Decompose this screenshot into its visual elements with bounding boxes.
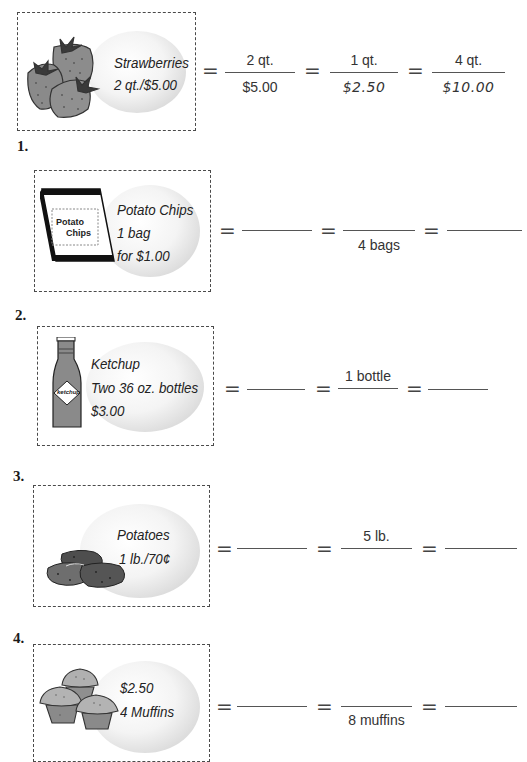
muffins-icon — [38, 665, 122, 731]
answer-blank[interactable] — [428, 389, 488, 390]
equals-sign: = — [406, 378, 423, 398]
fraction-numerator: 5 lb. — [341, 528, 412, 544]
item-label-line3: $3.00 — [91, 400, 124, 422]
ketchup-bottle-icon — [51, 337, 83, 433]
item-label-line2: 4 Muffins — [120, 701, 174, 723]
equals-sign: = — [421, 696, 438, 716]
problem-number: 2. — [15, 307, 26, 324]
problem-item-card: Potatoes 1 lb./70¢ — [33, 485, 210, 607]
fraction-denominator: 8 muffins — [341, 712, 412, 728]
equals-sign: = — [320, 220, 337, 240]
equals-sign: = — [216, 696, 233, 716]
answer-blank[interactable] — [247, 389, 305, 390]
equals-sign: = — [421, 538, 438, 558]
fraction-bar — [341, 706, 412, 707]
item-label-line1: Ketchup — [91, 353, 140, 375]
answer-blank[interactable] — [237, 548, 307, 549]
fraction-denominator: 4 bags — [343, 237, 415, 253]
item-label-line1: $2.50 — [120, 677, 153, 699]
equals-sign: = — [216, 538, 233, 558]
answer-blank[interactable] — [447, 230, 522, 231]
fraction-numerator: 2 qt. — [225, 52, 295, 68]
strawberries-icon — [22, 33, 112, 123]
answer-blank[interactable] — [237, 706, 307, 707]
fraction-numerator: 1 bottle — [338, 368, 398, 384]
item-label-line2: 1 lb./70¢ — [119, 548, 170, 570]
answer-blank[interactable] — [445, 548, 517, 549]
equals-sign: = — [304, 60, 321, 80]
problem-item-card: Potato Chips Potato Chips 1 bag for $1.0… — [34, 170, 211, 292]
fraction-denominator-handwritten: $10.00 — [432, 79, 505, 95]
potatoes-icon — [44, 548, 128, 590]
answer-blank[interactable] — [445, 706, 517, 707]
item-label-line3: for $1.00 — [117, 245, 170, 267]
fraction-denominator-handwritten: $2.50 — [330, 79, 398, 95]
chips-package-text: Potato Chips — [56, 217, 91, 239]
equals-sign: = — [316, 538, 333, 558]
equals-sign: = — [202, 60, 219, 80]
fraction-numerator: 1 qt. — [330, 52, 398, 68]
fraction-bar — [330, 72, 398, 73]
problem-number: 1. — [17, 138, 28, 155]
item-label-name: Strawberries — [114, 52, 189, 74]
problem-item-card: ketchup Ketchup Two 36 oz. bottles $3.00 — [37, 326, 214, 446]
item-label-line1: Potatoes — [117, 524, 170, 546]
item-label-line2: Two 36 oz. bottles — [91, 377, 198, 399]
answer-blank[interactable] — [242, 230, 312, 231]
equals-sign: = — [315, 378, 332, 398]
problem-number: 3. — [13, 468, 24, 485]
equals-sign: = — [423, 220, 440, 240]
chips-package-text-line1: Potato — [56, 217, 91, 228]
equals-sign: = — [224, 378, 241, 398]
problem-number: 4. — [13, 630, 24, 647]
ketchup-package-text: ketchup — [57, 389, 80, 395]
fraction-bar — [341, 548, 412, 549]
item-label-line2: 1 bag — [117, 222, 150, 244]
fraction-bar — [225, 72, 295, 73]
fraction-bar — [432, 72, 505, 73]
fraction-bar — [338, 388, 398, 389]
chips-package-text-line2: Chips — [56, 228, 91, 239]
item-label-price: 2 qt./$5.00 — [114, 74, 177, 96]
example-item-card: Strawberries 2 qt./$5.00 — [17, 12, 196, 131]
fraction-numerator: 4 qt. — [432, 52, 505, 68]
fraction-bar — [343, 230, 415, 231]
equals-sign: = — [316, 696, 333, 716]
equals-sign: = — [219, 220, 236, 240]
fraction-denominator: $5.00 — [225, 79, 295, 95]
problem-item-card: $2.50 4 Muffins — [33, 644, 210, 762]
item-label-line1: Potato Chips — [117, 199, 193, 221]
equals-sign: = — [407, 60, 424, 80]
